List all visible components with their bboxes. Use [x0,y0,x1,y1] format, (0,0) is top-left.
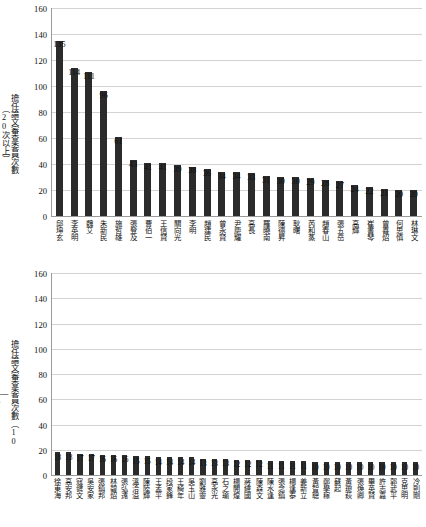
x-axis-label: 王信賢 [155,219,170,263]
y-axis-tick-label: 120 [34,57,52,66]
x-axis-label-text: 魏艾 [84,219,92,233]
y-axis-title-bottom: 擔任論文審查委員次數（10—19次） [2,289,18,497]
bar-value-label: 27 [336,182,344,190]
x-axis-label-text: 陳陸輝 [142,478,150,500]
x-axis-label: 陳德昇 [273,219,288,263]
bar-item: 43 [126,8,141,216]
bar-value-label: 28 [321,180,329,188]
bar-item: 11 [276,273,287,475]
x-axis-label: 高安邦 [62,478,73,526]
x-axis-label: 郭武平 [388,478,399,526]
bar-item: 10 [332,273,343,475]
x-axis-label-text: 冷則剛 [412,478,420,500]
bar [85,72,92,216]
bar-item: 14 [164,273,175,475]
bar-item: 11 [298,273,309,475]
bar-item: 10 [399,273,410,475]
y-axis-tick-label: 100 [34,345,52,354]
plot-area-bottom: 020406080100120140160 181817171616161515… [51,273,421,476]
bar-item: 20 [406,8,421,216]
y-axis-tick-label: 80 [38,371,52,380]
x-axis-label: 徐東海 [51,478,62,526]
x-axis-label: 張鎮邦 [96,478,107,526]
x-axis-label-text: 何思慎 [395,219,403,241]
bar-item: 10 [343,273,354,475]
bar-item: 33 [244,8,259,216]
x-axis-label: 曾永賢 [214,219,229,263]
bar-value-label: 13 [199,460,206,467]
bar-item: 11 [265,273,276,475]
x-axis-label: 畢英賢 [365,478,376,526]
x-axis-label: 高輝 [347,219,362,263]
bar-item: 16 [119,273,130,475]
plot-area-top: 020406080100120140160 135114111966143414… [51,8,421,217]
bar-value-label: 11 [278,463,285,470]
y-axis-title-segment: — [0,289,9,497]
x-axis-label: 張弘遠 [118,478,129,526]
x-axis-label: 楊開煌 [231,478,242,526]
bar-value-label: 16 [121,456,128,463]
x-axis-label: 蘇起 [331,478,342,526]
x-axis-label-text: 趙春山 [321,219,329,241]
bar-value-label: 24 [351,186,359,194]
y-axis-tick-label: 140 [34,31,52,40]
bar-item: 34 [214,8,229,216]
bar-value-label: 15 [143,458,150,465]
x-axis-label: 姜新立 [298,478,309,526]
bar-item: 34 [229,8,244,216]
x-axis-label-text: 高安邦 [64,478,72,500]
bar-item: 22 [362,8,377,216]
x-axis-label-text: 郭武平 [389,478,397,500]
x-axis-label-text: 吳安家 [86,478,94,500]
bar-value-label: 96 [100,92,108,100]
x-axis-label: 張煥卿 [354,478,365,526]
x-axis-label: 高永光 [208,478,219,526]
x-axis-label-text: 王孟平 [154,478,162,500]
bar-item: 11 [287,273,298,475]
x-axis-label: 施哲雄 [110,219,125,263]
x-axis-label: 許志嘉 [376,478,387,526]
bar-value-label: 12 [255,461,262,468]
x-axis-label-text: 張鎮邦 [97,478,105,500]
x-axis-label: 黃智聰 [309,478,320,526]
x-axis-label: 曾喜炤 [377,219,392,263]
bar-series-top: 1351141119661434141393836343433313030292… [52,8,421,216]
x-axis-label-text: 曾喜炤 [380,219,388,241]
x-axis-label-text: 溫洽溢 [131,478,139,500]
bar-item: 114 [67,8,82,216]
y-axis-tick-label: 40 [38,421,52,430]
x-axis-label: 張登及 [125,219,140,263]
x-axis-label-text: 克思明 [400,478,408,500]
y-axis-title-segment: 擔任論文審查委員次數 [9,26,18,241]
x-axis-label-text: 張五岳 [335,219,343,241]
bar-value-label: 135 [53,41,65,49]
bar-value-label: 17 [87,455,94,462]
y-axis-tick-label: 20 [38,446,52,455]
bar-item: 135 [52,8,67,216]
bar-item: 13 [220,273,231,475]
bar-value-label: 10 [345,464,352,471]
x-axis-label: 耿曙 [288,219,303,263]
y-axis-tick-label: 140 [34,295,52,304]
x-axis-label-text: 林碧炤 [109,478,117,500]
x-axis-label: 段家鋒 [163,478,174,526]
x-axis-label: 王綺年 [174,478,185,526]
bar-value-label: 10 [322,464,329,471]
gridline: 0 [52,216,422,217]
bar-item: 10 [354,273,365,475]
bar-item: 18 [52,273,63,475]
bar-item: 10 [388,273,399,475]
x-axis-labels-top: 邱坤玄李英明魏艾朱新民施哲雄張登及曹伯一王信賢關向光李明趙建民曾永賢尹慶耀高長羅… [51,219,421,263]
x-axis-label-text: 黃瓊萩 [344,478,352,500]
x-axis-label: 林琳文 [406,219,421,263]
bar-item: 16 [108,273,119,475]
x-axis-label: 邱坤玄 [51,219,66,263]
bar-value-label: 30 [277,178,285,186]
x-axis-label-text: 王綺年 [176,478,184,500]
bar-value-label: 18 [65,454,72,461]
x-axis-labels-bottom: 徐東海高安邦寇健文吳安家張鎮邦林碧炤張弘遠溫洽溢陳陸輝王孟平段家鋒王綺年吳玉山劉… [51,478,421,526]
x-axis-label: 王孟平 [152,478,163,526]
x-axis-label-text: 李英明 [69,219,77,241]
x-axis-label-text: 楊逢泰 [288,478,296,500]
y-axis-tick-label: 80 [38,109,52,118]
